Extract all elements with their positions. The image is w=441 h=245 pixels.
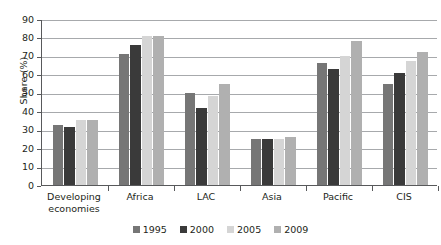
bar <box>394 73 405 186</box>
bar <box>383 84 394 185</box>
y-axis-tick-label: 60 <box>22 69 34 81</box>
bar <box>64 127 75 185</box>
legend-label: 2009 <box>284 224 308 235</box>
legend-item[interactable]: 1995 <box>133 224 167 235</box>
bar <box>196 108 207 185</box>
bar <box>285 137 296 185</box>
x-axis-label-line: CIS <box>371 191 437 203</box>
bar-group <box>108 20 174 185</box>
x-axis-label-line: Developing <box>41 191 107 203</box>
y-axis-tick-label: 20 <box>22 143 34 155</box>
legend-item[interactable]: 2009 <box>274 224 308 235</box>
y-axis-tick-label: 10 <box>22 161 34 173</box>
bar <box>317 63 328 185</box>
bar <box>219 84 230 185</box>
bar <box>130 45 141 185</box>
x-axis-label-line: Africa <box>107 191 173 203</box>
bar-group <box>372 20 438 185</box>
bar-group <box>174 20 240 185</box>
y-axis-ticks: 0102030405060708090 <box>0 20 41 186</box>
bar <box>87 120 98 185</box>
y-axis-tick-label: 50 <box>22 87 34 99</box>
x-axis-labels: DevelopingeconomiesAfricaLACAsiaPacificC… <box>41 191 437 221</box>
bar <box>185 93 196 185</box>
y-axis-tick-label: 80 <box>22 32 34 44</box>
legend-swatch <box>227 226 234 233</box>
legend-item[interactable]: 2005 <box>227 224 261 235</box>
x-axis-end-tick <box>438 186 439 191</box>
x-axis-label: Asia <box>239 191 305 203</box>
bar <box>153 36 164 185</box>
bar <box>351 41 362 185</box>
bar <box>142 36 153 185</box>
legend-swatch <box>180 226 187 233</box>
bar <box>251 139 262 185</box>
bar <box>274 139 285 185</box>
legend-item[interactable]: 2000 <box>180 224 214 235</box>
x-axis-label-line: LAC <box>173 191 239 203</box>
bar <box>53 125 64 185</box>
x-axis-label: Developingeconomies <box>41 191 107 214</box>
y-axis-tick-label: 90 <box>22 14 34 26</box>
bar <box>119 54 130 185</box>
x-axis-label: LAC <box>173 191 239 203</box>
bar <box>340 56 351 185</box>
x-axis-label: Pacific <box>305 191 371 203</box>
bar <box>208 96 219 185</box>
bar-group <box>240 20 306 185</box>
legend-label: 1995 <box>143 224 167 235</box>
y-axis-tick-label: 70 <box>22 50 34 62</box>
bar <box>76 120 87 185</box>
bar-chart: Share (%) 0102030405060708090 Developing… <box>0 0 441 245</box>
legend-swatch <box>274 226 281 233</box>
legend-label: 2005 <box>237 224 261 235</box>
bar <box>262 139 273 185</box>
bar <box>417 52 428 185</box>
x-axis-label-line: Asia <box>239 191 305 203</box>
y-axis-tick-label: 0 <box>28 180 34 192</box>
bar-group <box>306 20 372 185</box>
bar-group <box>42 20 108 185</box>
x-axis-label-line: Pacific <box>305 191 371 203</box>
bar <box>406 61 417 185</box>
bars-layer <box>42 20 437 185</box>
y-axis-tick-mark <box>37 186 41 187</box>
x-axis-label-line: economies <box>41 203 107 215</box>
y-axis-tick-label: 40 <box>22 106 34 118</box>
legend-swatch <box>133 226 140 233</box>
plot-area <box>41 20 437 186</box>
x-axis-label: Africa <box>107 191 173 203</box>
legend-label: 2000 <box>190 224 214 235</box>
x-axis-label: CIS <box>371 191 437 203</box>
y-axis-tick-label: 30 <box>22 124 34 136</box>
bar <box>328 69 339 185</box>
chart-legend: 1995200020052009 <box>0 224 441 235</box>
